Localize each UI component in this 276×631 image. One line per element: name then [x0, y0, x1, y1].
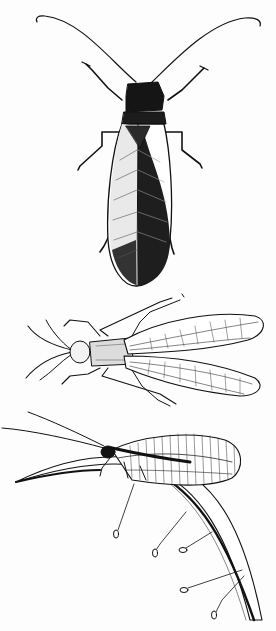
- figure-top-insect: [36, 16, 260, 297]
- figure-middle-insect: [26, 298, 263, 406]
- illustration-plate: [0, 0, 276, 631]
- figure-bottom-lacewing: [2, 412, 262, 620]
- insect-illustration: [0, 0, 276, 631]
